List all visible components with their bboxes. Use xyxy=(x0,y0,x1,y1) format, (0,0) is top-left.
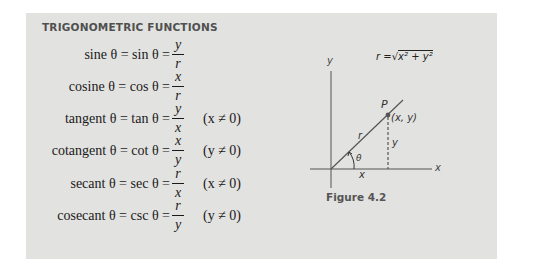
y-axis-label: y xyxy=(327,55,333,66)
x-axis-label: x xyxy=(435,162,441,173)
horizontal-leg-label: x xyxy=(359,169,365,180)
figure-caption: Figure 4.2 xyxy=(326,191,386,203)
coordinate-diagram xyxy=(0,0,533,278)
hypotenuse-label: r xyxy=(358,130,362,141)
angle-label: θ xyxy=(356,153,362,163)
point-coords-label: (x, y) xyxy=(391,112,417,123)
vertical-leg-label: y xyxy=(392,137,398,148)
point-label: P xyxy=(381,98,388,111)
